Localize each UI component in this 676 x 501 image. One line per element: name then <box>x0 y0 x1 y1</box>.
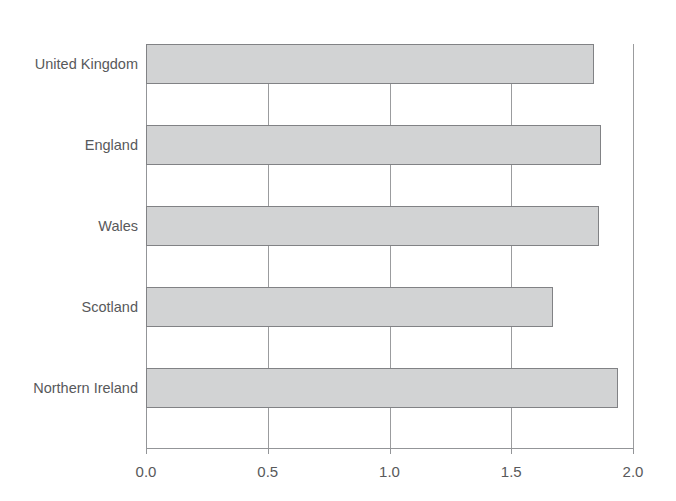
x-tick-mark-1.0 <box>390 448 391 454</box>
x-tick-mark-0.0 <box>146 448 147 454</box>
bar-row <box>146 44 633 84</box>
x-tick-label: 1.0 <box>355 462 425 482</box>
bar <box>146 287 553 327</box>
x-tick-label: 0.5 <box>233 462 303 482</box>
category-label: United Kingdom <box>2 56 138 72</box>
bar <box>146 125 601 165</box>
x-tick-label: 2.0 <box>598 462 668 482</box>
category-label: Scotland <box>2 299 138 315</box>
bar <box>146 368 618 408</box>
gridline-2.0 <box>633 44 634 448</box>
x-tick-label: 1.5 <box>476 462 546 482</box>
category-label: England <box>2 137 138 153</box>
category-label: Northern Ireland <box>2 380 138 396</box>
bar-chart-figure: United KingdomEnglandWalesScotlandNorthe… <box>0 0 676 501</box>
category-axis: United KingdomEnglandWalesScotlandNorthe… <box>0 0 138 501</box>
x-tick-mark-1.5 <box>511 448 512 454</box>
x-tick-mark-2.0 <box>633 448 634 454</box>
category-label: Wales <box>2 218 138 234</box>
bar-row <box>146 206 633 246</box>
bar-row <box>146 287 633 327</box>
x-axis-tick-labels: 0.00.51.01.52.0 <box>0 462 676 486</box>
x-tick-mark-0.5 <box>268 448 269 454</box>
plot-area <box>146 44 633 448</box>
bar-row <box>146 368 633 408</box>
bar <box>146 44 594 84</box>
bar-row <box>146 125 633 165</box>
bar <box>146 206 599 246</box>
x-tick-label: 0.0 <box>111 462 181 482</box>
